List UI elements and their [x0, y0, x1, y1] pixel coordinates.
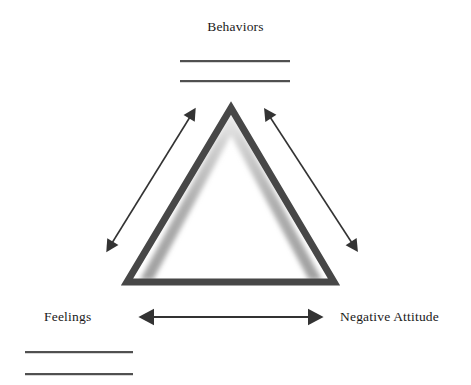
feelings-label: Feelings	[44, 310, 91, 324]
feelings-write-line-1	[25, 351, 133, 353]
behaviors-write-line-1	[180, 60, 290, 62]
cognitive-triangle-graphic	[0, 0, 471, 385]
triangle-glow	[140, 112, 322, 280]
feelings-write-line-2	[25, 373, 133, 375]
diagram-canvas: Behaviors Feelings Negative Attitude	[0, 0, 471, 385]
behaviors-write-line-2	[180, 80, 290, 82]
behaviors-label: Behaviors	[0, 20, 471, 34]
negative-attitude-label: Negative Attitude	[340, 310, 439, 324]
